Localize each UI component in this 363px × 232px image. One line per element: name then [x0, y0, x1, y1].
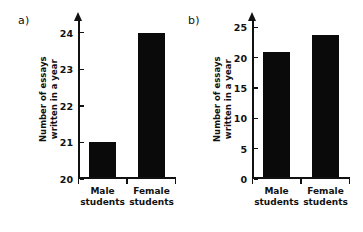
- figure-bar-chart-pair: a) Number of essays written in a year 20…: [0, 0, 363, 232]
- x-axis-category-line1: Female: [129, 186, 174, 197]
- bar-male-students: [263, 52, 290, 178]
- panel-b-y-axis-title: Number of essays written in a year: [212, 57, 233, 142]
- panel-a-label: a): [18, 14, 29, 27]
- bar-male-students: [89, 142, 116, 177]
- y-axis-tick-label: 5: [240, 143, 247, 154]
- y-axis-tick-label: 20: [234, 52, 247, 63]
- panel-a: a) Number of essays written in a year 20…: [0, 0, 181, 232]
- bar-female-students: [312, 35, 339, 178]
- y-axis-title-line2: written in a year: [49, 57, 60, 142]
- y-axis-tick: [254, 57, 258, 58]
- x-axis-tick: [175, 179, 176, 184]
- y-axis-title-line1: Number of essays: [38, 57, 49, 142]
- y-axis-tick: [80, 178, 84, 179]
- x-axis-category-label: Femalestudents: [303, 186, 348, 208]
- y-axis-title-line2: written in a year: [223, 57, 234, 142]
- panel-b-y-axis-arrow-icon: [248, 12, 256, 21]
- panel-a-plot-area: 2021222324MalestudentsFemalestudents: [78, 20, 176, 179]
- x-axis-category-line2: students: [303, 197, 348, 208]
- y-axis-tick-label: 25: [234, 22, 247, 33]
- x-axis-category-line2: students: [80, 197, 125, 208]
- panel-b: b) Number of essays written in a year 05…: [182, 0, 363, 232]
- y-axis-tick: [80, 69, 84, 70]
- x-axis-category-label: Malestudents: [254, 186, 299, 208]
- y-axis-tick: [254, 148, 258, 149]
- y-axis-tick-label: 10: [234, 113, 247, 124]
- y-axis-tick-label: 24: [60, 27, 73, 38]
- x-axis-category-line1: Male: [254, 186, 299, 197]
- y-axis-tick: [254, 118, 258, 119]
- y-axis-tick-label: 21: [60, 137, 73, 148]
- x-axis-origin-tick: [78, 179, 79, 184]
- x-axis-category-line1: Female: [303, 186, 348, 197]
- y-axis-tick: [80, 142, 84, 143]
- y-axis-tick: [254, 178, 258, 179]
- x-axis-tick: [349, 179, 350, 184]
- y-axis-tick: [80, 32, 84, 33]
- x-axis-tick: [126, 179, 127, 184]
- panel-b-label: b): [188, 14, 200, 27]
- x-axis-category-line1: Male: [80, 186, 125, 197]
- bar-female-students: [138, 33, 165, 178]
- x-axis-tick: [300, 179, 301, 184]
- x-axis-category-label: Femalestudents: [129, 186, 174, 208]
- y-axis-tick: [254, 87, 258, 88]
- y-axis-tick-label: 20: [60, 174, 73, 185]
- y-axis-tick: [80, 105, 84, 106]
- x-axis-category-line2: students: [254, 197, 299, 208]
- panel-a-y-axis-title: Number of essays written in a year: [38, 57, 59, 142]
- y-axis-tick-label: 15: [234, 82, 247, 93]
- y-axis-tick-label: 23: [60, 64, 73, 75]
- panel-a-y-axis-line: [78, 20, 80, 179]
- panel-a-y-axis-arrow-icon: [74, 12, 82, 21]
- panel-b-y-axis-line: [252, 20, 254, 179]
- x-axis-category-line2: students: [129, 197, 174, 208]
- x-axis-origin-tick: [252, 179, 253, 184]
- x-axis-category-label: Malestudents: [80, 186, 125, 208]
- y-axis-tick: [254, 27, 258, 28]
- panel-b-plot-area: 0510152025MalestudentsFemalestudents: [252, 20, 350, 179]
- y-axis-tick-label: 22: [60, 100, 73, 111]
- y-axis-title-line1: Number of essays: [212, 57, 223, 142]
- y-axis-tick-label: 0: [240, 174, 247, 185]
